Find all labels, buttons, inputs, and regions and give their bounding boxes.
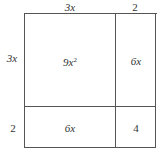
side-label-top: 3x [7, 52, 17, 64]
cell-top-left: 9x2 [63, 54, 77, 68]
vertical-divider [115, 13, 116, 148]
top-border [25, 13, 157, 14]
top-label-right: 2 [132, 1, 138, 13]
horizontal-divider [24, 106, 156, 107]
side-label-bottom: 2 [10, 122, 16, 134]
bottom-border [24, 147, 156, 148]
right-border [155, 13, 156, 148]
cell-bottom-right: 4 [133, 122, 139, 134]
cell-bottom-left: 6x [65, 122, 75, 134]
left-border [24, 13, 25, 148]
cell-top-right: 6x [131, 55, 141, 67]
top-label-left: 3x [65, 1, 75, 13]
